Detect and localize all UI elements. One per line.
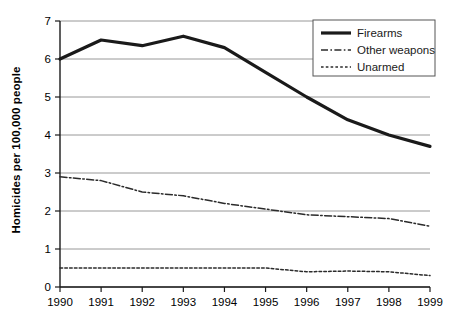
x-tick-label: 1996 bbox=[294, 296, 320, 308]
x-tick-label: 1998 bbox=[376, 296, 402, 308]
x-tick-label: 1993 bbox=[171, 296, 197, 308]
legend-label-other-weapons: Other weapons bbox=[357, 44, 435, 56]
y-tick-label: 4 bbox=[45, 129, 52, 141]
legend-label-firearms: Firearms bbox=[357, 27, 403, 39]
y-tick-label: 5 bbox=[45, 91, 51, 103]
series-line-unarmed bbox=[60, 268, 430, 276]
y-tick-label: 7 bbox=[45, 15, 51, 27]
x-tick-label: 1990 bbox=[47, 296, 73, 308]
x-tick-label: 1994 bbox=[212, 296, 238, 308]
y-tick-label: 0 bbox=[45, 281, 51, 293]
series-line-other-weapons bbox=[60, 177, 430, 226]
legend: FirearmsOther weaponsUnarmed bbox=[313, 20, 435, 76]
x-axis-ticks: 1990199119921993199419951996199719981999 bbox=[47, 287, 443, 308]
y-tick-label: 2 bbox=[45, 205, 51, 217]
legend-label-unarmed: Unarmed bbox=[357, 61, 404, 73]
y-tick-label: 3 bbox=[45, 167, 51, 179]
x-tick-label: 1991 bbox=[88, 296, 114, 308]
line-chart: Homicides per 100,000 people 01234567 19… bbox=[0, 0, 454, 317]
x-tick-label: 1997 bbox=[335, 296, 361, 308]
x-tick-label: 1995 bbox=[253, 296, 279, 308]
y-tick-label: 6 bbox=[45, 53, 51, 65]
y-axis-ticks: 01234567 bbox=[45, 15, 60, 293]
y-tick-label: 1 bbox=[45, 243, 51, 255]
x-tick-label: 1999 bbox=[417, 296, 443, 308]
plot-area: 01234567 1990199119921993199419951996199… bbox=[0, 0, 454, 317]
x-tick-label: 1992 bbox=[129, 296, 155, 308]
